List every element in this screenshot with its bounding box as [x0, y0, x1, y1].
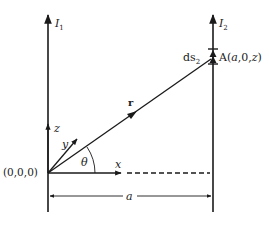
wire-1: I1 [48, 15, 64, 212]
z-axis-label: z [53, 122, 60, 135]
point-a-label: A(a,0,z) [218, 51, 262, 64]
separation-label: a [126, 190, 133, 203]
wire-2-current-label: I2 [218, 17, 228, 32]
y-axis-label: y [61, 138, 69, 151]
position-vector-r [48, 59, 211, 173]
r-vector-label: r [128, 97, 134, 108]
theta-arc [87, 147, 95, 173]
two-wire-magnetic-force-diagram: I1 I2 ds2 A(a,0,z) r z y x θ (0,0,0) a [0, 0, 269, 225]
wire-2: I2 [213, 15, 228, 212]
x-axis-label: x [115, 158, 122, 171]
theta-label: θ [81, 156, 88, 169]
origin-label: (0,0,0) [3, 166, 38, 178]
wire-1-current-label: I1 [54, 17, 64, 32]
ds2-label: ds2 [183, 51, 200, 66]
ds2-element [208, 49, 218, 64]
